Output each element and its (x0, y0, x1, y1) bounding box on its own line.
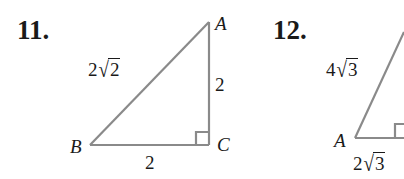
side-label-ab: 2√2 (88, 58, 120, 79)
radical-icon: √ (364, 153, 374, 175)
side-label-bottom-12: 2√3 (353, 152, 385, 173)
coefficient: 4 (326, 60, 336, 79)
coefficient: 2 (88, 60, 98, 79)
side-label-ac: 2 (215, 75, 225, 94)
vertex-label-b: B (70, 137, 82, 156)
radicand: 3 (373, 152, 386, 173)
vertex-label-a: A (215, 14, 227, 33)
side-hypotenuse (355, 32, 404, 138)
vertex-label-a-12: A (334, 131, 346, 150)
radical-icon: √ (337, 59, 347, 81)
figure-lines (0, 0, 404, 179)
side-ab (90, 22, 209, 145)
problem-number-11: 11. (17, 17, 49, 44)
problem-number-12: 12. (273, 17, 307, 44)
right-angle-marker-c (196, 132, 209, 145)
triangle-12 (355, 32, 404, 138)
radicand: 3 (346, 58, 359, 79)
side-label-bc: 2 (145, 153, 155, 172)
vertex-label-c: C (217, 135, 230, 154)
side-label-hypotenuse-12: 4√3 (326, 58, 358, 79)
coefficient: 2 (353, 154, 363, 173)
right-angle-marker (395, 124, 404, 138)
radical-icon: √ (99, 59, 109, 81)
radicand: 2 (108, 58, 121, 79)
triangle-11 (90, 22, 209, 145)
